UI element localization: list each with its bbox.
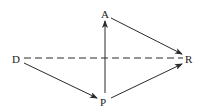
node-label-p: P bbox=[100, 96, 106, 108]
arrow-d-to-p bbox=[24, 63, 97, 98]
node-label-r: R bbox=[185, 53, 193, 65]
node-label-a: A bbox=[101, 8, 109, 20]
arrow-a-to-r bbox=[111, 18, 182, 54]
vector-diagram: A D R P bbox=[0, 0, 202, 112]
node-label-d: D bbox=[12, 53, 20, 65]
arrow-p-to-r bbox=[111, 64, 182, 98]
